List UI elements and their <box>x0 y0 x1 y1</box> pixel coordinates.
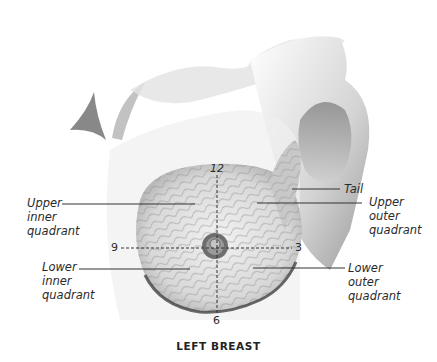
clock-6: 6 <box>213 314 220 327</box>
label-tail: Tail <box>344 182 363 196</box>
label-upper-inner-quadrant: Upper inner quadrant <box>27 196 80 238</box>
label-lower-inner-quadrant: Lower inner quadrant <box>42 260 95 302</box>
clock-3: 3 <box>295 241 302 254</box>
breast-quadrant-illustration <box>0 0 437 362</box>
label-lower-outer-quadrant: Lower outer quadrant <box>348 261 401 303</box>
clock-9: 9 <box>111 241 118 254</box>
figure-caption: LEFT BREAST <box>0 340 437 352</box>
clock-12: 12 <box>210 162 224 175</box>
label-upper-outer-quadrant: Upper outer quadrant <box>369 195 422 237</box>
